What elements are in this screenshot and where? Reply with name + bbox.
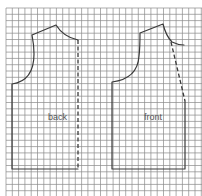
front-label: front xyxy=(144,112,163,122)
pattern-diagram: back front xyxy=(0,0,202,196)
background xyxy=(0,0,202,196)
back-label: back xyxy=(48,112,68,122)
